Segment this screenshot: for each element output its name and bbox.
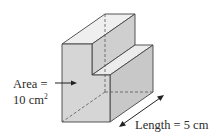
- prism-diagram: Area = 10 cm2 Length = 5 cm: [0, 0, 222, 140]
- area-unit-exponent: 2: [44, 92, 48, 101]
- area-value-number: 10 cm: [13, 93, 44, 107]
- area-value: 10 cm2: [13, 93, 48, 107]
- area-label: Area =: [13, 78, 47, 91]
- length-label: Length = 5 cm: [135, 119, 208, 132]
